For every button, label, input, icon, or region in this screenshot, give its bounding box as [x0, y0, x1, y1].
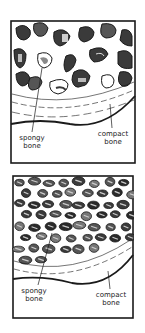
label-compact: compact [98, 130, 129, 138]
label-spongy: spongy [21, 287, 46, 295]
panel-spongy-bone-sparse: spongy bone compact bone [10, 20, 136, 164]
label-spongy-2: bone [25, 295, 42, 303]
bone-cross-section-illustration: spongy bone compact bone [12, 175, 134, 319]
bone-cross-section-illustration: spongy bone compact bone [10, 20, 136, 164]
label-compact-2: bone [102, 299, 119, 307]
label-compact: compact [96, 291, 127, 299]
label-compact-2: bone [104, 138, 121, 146]
label-spongy: spongy [19, 134, 44, 142]
label-spongy-2: bone [23, 142, 40, 150]
panel-spongy-bone-dense: spongy bone compact bone [12, 175, 134, 319]
